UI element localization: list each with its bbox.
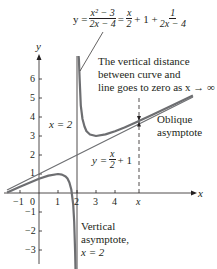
y-tick-neg1: −1 — [25, 207, 36, 217]
equation-fraction-2: x 2 — [126, 8, 132, 29]
x-tick-2: 2 — [74, 197, 79, 207]
distance-annotation: The vertical distance between curve and … — [98, 55, 215, 94]
equation-lhs: y = — [73, 13, 87, 25]
y-tick-6: 6 — [30, 74, 35, 84]
y-ticks — [39, 79, 42, 250]
x-ticks — [20, 190, 115, 193]
y-tick-neg2: −2 — [25, 226, 36, 236]
line-label-fraction: x 2 — [109, 149, 115, 170]
x-axis-arrow-icon — [191, 191, 197, 196]
y-axis-arrow-icon — [37, 54, 42, 60]
y-tick-4: 4 — [30, 112, 35, 122]
curve-left-branch — [7, 174, 75, 269]
equation-plus-one: + 1 + — [134, 13, 157, 25]
x-equals-2-label: x = 2 — [49, 118, 72, 130]
vertical-asymptote-label: Vertical asymptote, x = 2 — [81, 220, 129, 259]
y-axis-label: y — [36, 40, 41, 52]
equation-fraction-1: x² − 3 2x − 4 — [89, 8, 115, 29]
equation-fraction-3: 1 2x − 4 — [160, 8, 186, 29]
y-tick-5: 5 — [30, 93, 35, 103]
x-tick-3: 3 — [93, 197, 98, 207]
y-tick-neg3: −3 — [25, 245, 36, 255]
oblique-asymptote-label: Oblique asymptote — [157, 113, 202, 139]
equation-equals: = — [118, 13, 124, 25]
y-tick-3: 3 — [30, 131, 35, 141]
x-tick-4: 4 — [112, 197, 117, 207]
y-tick-2: 2 — [30, 150, 35, 160]
x-tick-x: x — [136, 197, 140, 207]
oblique-line-equation-label: y = x 2 + 1 — [92, 149, 132, 170]
equation: y = x² − 3 2x − 4 = x 2 + 1 + 1 2x − 4 — [73, 8, 186, 29]
y-tick-1: 1 — [30, 168, 35, 178]
x-tick-neg1: −1 — [13, 197, 24, 207]
x-axis-label: x — [198, 187, 203, 199]
x-tick-1: 1 — [55, 197, 60, 207]
